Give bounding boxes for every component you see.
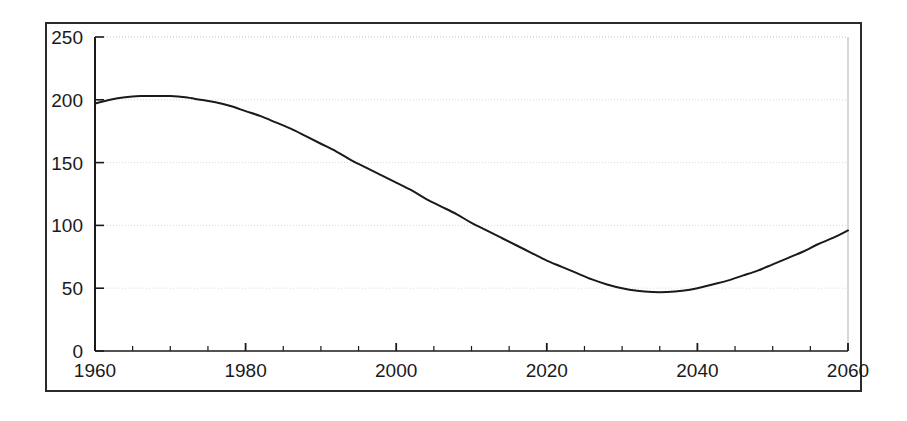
y-axis-tick-labels: 050100150200250 bbox=[51, 27, 83, 362]
x-tick-label: 2020 bbox=[526, 360, 568, 381]
gridlines-group bbox=[95, 37, 848, 288]
line-chart: 050100150200250 196019802000202020402060 bbox=[0, 0, 907, 421]
y-tick-label: 0 bbox=[72, 341, 83, 362]
plot-area-wrapper: 050100150200250 196019802000202020402060 bbox=[0, 0, 907, 421]
x-tick-label: 1960 bbox=[74, 360, 116, 381]
y-tick-label: 250 bbox=[51, 27, 83, 48]
x-tick-label: 2000 bbox=[375, 360, 417, 381]
x-axis-tick-labels: 196019802000202020402060 bbox=[74, 360, 869, 381]
x-tick-label: 2060 bbox=[827, 360, 869, 381]
y-axis-ticks bbox=[95, 37, 104, 351]
y-tick-label: 200 bbox=[51, 90, 83, 111]
x-tick-label: 1980 bbox=[224, 360, 266, 381]
x-tick-label: 2040 bbox=[676, 360, 718, 381]
data-series-line bbox=[95, 96, 848, 292]
y-tick-label: 50 bbox=[62, 278, 83, 299]
y-tick-label: 150 bbox=[51, 153, 83, 174]
plot-frame bbox=[95, 37, 848, 351]
y-tick-label: 100 bbox=[51, 215, 83, 236]
figure-container: 050100150200250 196019802000202020402060 bbox=[0, 0, 907, 421]
